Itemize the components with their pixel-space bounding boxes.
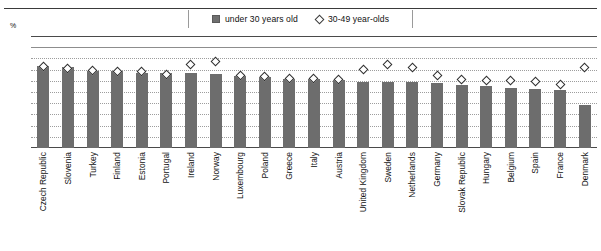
bar-group (326, 36, 351, 148)
x-axis-label: Denmark (572, 150, 597, 246)
x-axis-label: Norway (203, 150, 228, 246)
x-axis-label-text: Spain (530, 152, 540, 174)
x-axis-label-text: Italy (309, 152, 319, 168)
x-axis-label-text: Ireland (186, 152, 196, 178)
x-axis-label: Netherlands (400, 150, 425, 246)
x-axis-label: Spain (523, 150, 548, 246)
x-axis-label-text: Czech Republic (38, 152, 48, 211)
x-axis-labels: Czech RepublicSloveniaTurkeyFinlandEston… (31, 150, 597, 248)
chart-page: under 30 years old 30-49 year-olds % 100… (0, 0, 601, 251)
bar (62, 67, 74, 148)
bar (480, 86, 492, 148)
bar (185, 73, 197, 148)
x-axis-label-text: Sweden (383, 152, 393, 183)
bar-group (400, 36, 425, 148)
x-axis-label: Czech Republic (31, 150, 56, 246)
x-axis-label: Austria (326, 150, 351, 246)
bar (529, 89, 541, 148)
diamond-marker (531, 77, 541, 87)
legend-item-30-49: 30-49 year-olds (316, 14, 389, 24)
bar-group (449, 36, 474, 148)
bar-group (523, 36, 548, 148)
bar-group (105, 36, 130, 148)
bar (136, 73, 148, 148)
x-axis-label: Portugal (154, 150, 179, 246)
x-axis-label-text: Greece (284, 152, 294, 180)
diamond-marker (506, 76, 516, 86)
bar-group (302, 36, 327, 148)
bar-group (252, 36, 277, 148)
diamond-marker (211, 57, 221, 67)
bar (210, 74, 222, 148)
bar-group (548, 36, 573, 148)
x-axis-label: Slovenia (56, 150, 81, 246)
x-axis-label-text: Belgium (506, 152, 516, 183)
x-axis-label: Finland (105, 150, 130, 246)
diamond-marker (555, 79, 565, 89)
bar-group (474, 36, 499, 148)
x-axis-label-text: Germany (432, 152, 442, 187)
x-axis-label: Greece (277, 150, 302, 246)
x-axis-label: Luxembourg (228, 150, 253, 246)
bar (431, 83, 443, 148)
bar (382, 82, 394, 148)
diamond-marker (383, 59, 393, 69)
bar (111, 71, 123, 148)
legend-label-30-49: 30-49 year-olds (328, 14, 389, 24)
top-divider (4, 8, 597, 9)
x-axis-label: United Kingdom (351, 150, 376, 246)
x-axis-label-text: United Kingdom (358, 152, 368, 212)
bar-group (179, 36, 204, 148)
x-axis-label-text: France (555, 152, 565, 178)
x-axis-label-text: Hungary (481, 152, 491, 184)
bar (37, 66, 49, 148)
open-diamond-icon (314, 14, 324, 24)
bar (87, 71, 99, 148)
x-axis-label-text: Denmark (580, 152, 590, 186)
x-axis-label-text: Turkey (88, 152, 98, 178)
x-axis-label: Poland (252, 150, 277, 246)
legend-item-under-30: under 30 years old (212, 14, 298, 24)
bar-group (499, 36, 524, 148)
legend-label-under-30: under 30 years old (225, 14, 298, 24)
bar-group (129, 36, 154, 148)
x-axis-label-text: Slovak Republic (457, 152, 467, 213)
bar (308, 79, 320, 148)
bar (283, 79, 295, 148)
diamond-marker (580, 62, 590, 72)
bar-group (572, 36, 597, 148)
x-axis-label: Turkey (80, 150, 105, 246)
x-axis-label-text: Austria (334, 152, 344, 178)
bar (554, 90, 566, 148)
x-axis-label-text: Estonia (137, 152, 147, 180)
x-axis-label: Italy (302, 150, 327, 246)
x-axis-label: France (548, 150, 573, 246)
x-axis-label: Germany (425, 150, 450, 246)
bar (259, 77, 271, 148)
diamond-marker (481, 76, 491, 86)
bar-group (277, 36, 302, 148)
chart-legend: under 30 years old 30-49 year-olds (188, 10, 413, 28)
diamond-marker (407, 62, 417, 72)
bar (406, 82, 418, 148)
bar (505, 88, 517, 148)
diamond-marker (186, 59, 196, 69)
bar-group (203, 36, 228, 148)
x-axis-label-text: Finland (112, 152, 122, 180)
bar-group (154, 36, 179, 148)
bar (357, 82, 369, 148)
diamond-marker (358, 65, 368, 75)
bar-group (228, 36, 253, 148)
filled-square-icon (212, 15, 220, 23)
bar (456, 85, 468, 148)
x-axis-label: Belgium (499, 150, 524, 246)
x-axis-label: Slovak Republic (449, 150, 474, 246)
bar-group (31, 36, 56, 148)
bar-group (56, 36, 81, 148)
x-axis-label-text: Portugal (161, 152, 171, 184)
x-axis-label-text: Poland (260, 152, 270, 178)
x-axis-label-text: Slovenia (63, 152, 73, 185)
x-axis-label: Ireland (179, 150, 204, 246)
bar-group (351, 36, 376, 148)
bar-group (425, 36, 450, 148)
